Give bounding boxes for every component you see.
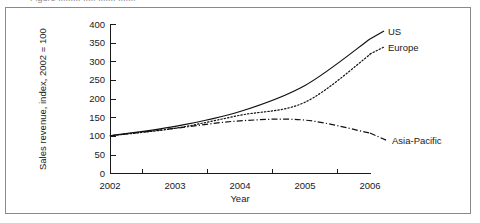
x-axis-tick-labels: 2002 2003 2004 2005 2006 xyxy=(99,180,380,191)
y-tick-label-0: 0 xyxy=(100,168,105,179)
line-chart: 400 350 300 250 200 150 100 50 0 Sales r… xyxy=(0,0,480,223)
series-label-us: US xyxy=(388,26,401,37)
y-tick-label-400: 400 xyxy=(89,19,105,30)
y-tick-label-150: 150 xyxy=(89,112,105,123)
x-axis-ticks xyxy=(143,169,338,174)
x-tick-label-2006: 2006 xyxy=(359,180,380,191)
series-line-asia-pacific xyxy=(110,119,370,136)
series-label-europe: Europe xyxy=(388,42,419,53)
y-axis-ticks xyxy=(111,25,116,174)
x-tick-label-2002: 2002 xyxy=(99,180,120,191)
x-tick-label-2003: 2003 xyxy=(164,180,185,191)
y-axis-tick-labels: 400 350 300 250 200 150 100 50 0 xyxy=(89,19,105,179)
y-tick-label-350: 350 xyxy=(89,37,105,48)
y-axis-title: Sales revenue, index, 2002 = 100 xyxy=(37,28,48,170)
y-tick-label-100: 100 xyxy=(89,130,105,141)
y-tick-label-300: 300 xyxy=(89,56,105,67)
x-tick-label-2005: 2005 xyxy=(294,180,315,191)
y-tick-label-200: 200 xyxy=(89,93,105,104)
label-leader-lines xyxy=(370,31,388,141)
x-axis-title: Year xyxy=(230,193,249,204)
x-tick-label-2004: 2004 xyxy=(229,180,250,191)
series-line-europe xyxy=(110,55,370,136)
series-label-asia-pacific: Asia-Pacific xyxy=(392,135,442,146)
y-tick-label-250: 250 xyxy=(89,74,105,85)
y-tick-label-50: 50 xyxy=(94,149,105,160)
